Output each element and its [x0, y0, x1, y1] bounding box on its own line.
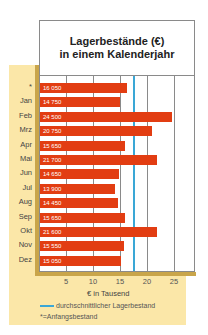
bar: 15 650 — [40, 213, 125, 223]
category-label: Mrz — [2, 125, 32, 135]
category-label: Sep — [2, 212, 32, 222]
category-label: Aug — [2, 197, 32, 207]
x-tick-label: 25 — [164, 277, 184, 286]
category-label: Jul — [2, 183, 32, 193]
chart-title-line-1: Lagerbestände (€) — [70, 35, 165, 48]
bar: 16 050 — [40, 83, 127, 93]
bar: 20 750 — [40, 126, 152, 136]
category-label: Okt — [2, 226, 32, 236]
category-label: Jun — [2, 168, 32, 178]
chart-title: Lagerbestände (€) in einem Kalenderjahr — [40, 21, 194, 76]
footnote: *=Anfangsbestand — [40, 313, 97, 320]
bar: 14 750 — [40, 97, 120, 107]
x-tick-label: 20 — [137, 277, 157, 286]
bar: 14 450 — [40, 198, 118, 208]
category-label: Feb — [2, 111, 32, 121]
grid-line — [174, 76, 175, 271]
average-line — [133, 76, 135, 271]
bar: 13 900 — [40, 184, 115, 194]
category-label: Apr — [2, 140, 32, 150]
chart-frame: Lagerbestände (€) in einem Kalenderjahr … — [39, 20, 195, 272]
x-tick-label: 10 — [83, 277, 103, 286]
bar: 15 550 — [40, 241, 124, 251]
x-tick-label: 15 — [110, 277, 130, 286]
bar: 21 600 — [40, 227, 157, 237]
x-axis-label: € in Tausend — [87, 289, 129, 298]
category-label: Nov — [2, 240, 32, 250]
frame-shadow-bottom — [35, 272, 196, 276]
bar: 15 050 — [40, 256, 121, 266]
category-label: Mai — [2, 154, 32, 164]
average-line-swatch — [40, 305, 54, 307]
category-label: Dez — [2, 255, 32, 265]
x-tick-label: 5 — [56, 277, 76, 286]
category-label: Jan — [2, 96, 32, 106]
bar: 21 700 — [40, 155, 157, 165]
bar: 24 500 — [40, 112, 172, 122]
bar: 15 650 — [40, 141, 125, 151]
bar: 14 650 — [40, 169, 119, 179]
chart-title-line-2: in einem Kalenderjahr — [60, 48, 175, 61]
legend-average-label: durchschnittlicher Lagerbestand — [56, 302, 155, 309]
grid-line — [147, 76, 148, 271]
category-label: * — [2, 82, 32, 92]
legend-average: durchschnittlicher Lagerbestand — [40, 302, 155, 309]
